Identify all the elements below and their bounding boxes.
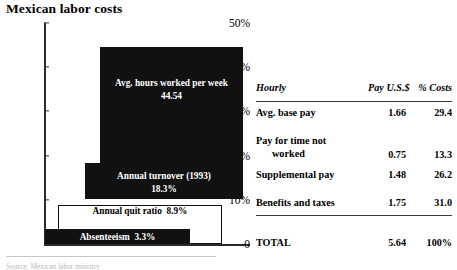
row-label-avg-base-pay: Avg. base pay [256,107,316,120]
table-header-row: Hourly Pay U.S.$ % Costs [256,82,452,101]
table-header-hourly: Hourly [256,82,286,95]
table-total-rule [256,215,452,216]
y-tick-mark-20 [44,155,49,156]
table-row: Benefits and taxes 1.75 31.0 [256,197,452,223]
row-pay-total: 5.64 [368,237,406,250]
bar-value-annual-turnover: 18.3% [85,183,243,195]
footer-divider [6,256,216,257]
row-pay-pay-for-time-not-worked: 0.75 [368,149,406,162]
bar-label-absenteeism: Absenteeism 3.3% [45,231,190,243]
bar-label-annual-quit-ratio: Annual quit ratio 8.9% [59,205,221,217]
row-label-line1: Pay for time not [256,135,326,146]
plot-area: 50% 40% 30% 20% 10% 0 Avg. hours worked … [0,18,250,250]
row-label-total: TOTAL [256,237,291,250]
row-label-supplemental-pay: Supplemental pay [256,169,334,182]
row-pct-pay-for-time-not-worked: 13.3 [412,149,452,162]
table-header-rule [256,101,452,102]
bar-annual-turnover: Annual turnover (1993) 18.3% [85,163,243,199]
row-label-pay-for-time-not-worked: Pay for time not worked [256,135,326,161]
row-pay-supplemental-pay: 1.48 [368,169,406,182]
bar-label-annual-quit-ratio-text: Annual quit ratio [93,206,162,216]
chart-title: Mexican labor costs [6,1,122,17]
bar-label-absenteeism-text: Absenteeism [80,232,130,242]
y-tick-mark-30 [44,110,49,111]
table-row: Avg. base pay 1.66 29.4 [256,107,452,135]
bar-absenteeism: Absenteeism 3.3% [45,229,190,244]
row-label-line2: worked [256,148,326,161]
bar-value-absenteeism: 3.3% [134,232,155,242]
y-tick-label-50: 50% [208,17,250,29]
table-total-row: TOTAL 5.64 100% [256,237,452,259]
bar-label-avg-hours-worked: Avg. hours worked per week [100,77,243,89]
row-pct-total: 100% [412,237,452,250]
y-tick-mark-50 [44,22,49,23]
cost-breakdown-table: Hourly Pay U.S.$ % Costs Avg. base pay 1… [256,82,452,259]
row-pay-avg-base-pay: 1.66 [368,107,406,120]
table-row: Supplemental pay 1.48 26.2 [256,169,452,197]
y-axis-line [44,23,46,245]
row-pct-avg-base-pay: 29.4 [412,107,452,120]
bar-value-annual-quit-ratio: 8.9% [166,206,187,216]
bar-avg-hours-worked: Avg. hours worked per week 44.54 [100,47,243,163]
row-pct-supplemental-pay: 26.2 [412,169,452,182]
chart-figure: Mexican labor costs 50% 40% 30% 20% 10% … [0,0,457,270]
bar-label-annual-turnover: Annual turnover (1993) [85,170,243,182]
source-note: Source: Mexican labor ministry [6,262,100,270]
table-header-pct: % Costs [412,82,452,95]
bar-value-avg-hours-worked: 44.54 [100,90,243,102]
table-header-pay: Pay U.S.$ [368,82,406,95]
y-tick-mark-10 [44,199,49,200]
row-pct-benefits-and-taxes: 31.0 [412,197,452,210]
row-pay-benefits-and-taxes: 1.75 [368,197,406,210]
y-tick-mark-40 [44,66,49,67]
row-label-benefits-and-taxes: Benefits and taxes [256,197,335,210]
table-row: Pay for time not worked 0.75 13.3 [256,135,452,169]
